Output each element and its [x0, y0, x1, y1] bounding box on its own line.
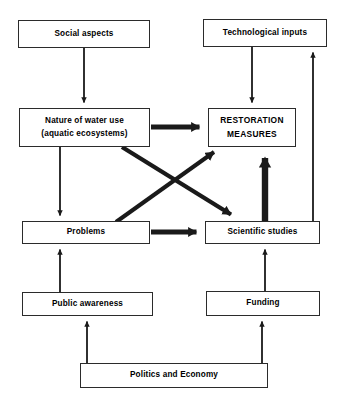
- node-label-line: Problems: [67, 226, 106, 239]
- node-label-line: Politics and Economy: [130, 369, 218, 382]
- node-label-line: MEASURES: [227, 128, 277, 141]
- node-politics-and-economy: Politics and Economy: [80, 363, 268, 388]
- node-label-line: Scientific studies: [227, 226, 297, 239]
- node-public-awareness: Public awareness: [22, 292, 153, 316]
- node-funding: Funding: [206, 291, 320, 316]
- node-nature-of-water-use: Nature of water use (aquatic ecosystems): [19, 108, 150, 147]
- node-label-line: Social aspects: [55, 28, 114, 41]
- node-restoration-measures: RESTORATION MEASURES: [208, 108, 296, 147]
- node-label-line: (aquatic ecosystems): [41, 128, 127, 141]
- node-problems: Problems: [22, 221, 150, 244]
- node-label-line: Public awareness: [52, 298, 123, 311]
- node-label-line: RESTORATION: [220, 114, 283, 127]
- node-technological-inputs: Technological inputs: [203, 19, 327, 47]
- node-label-line: Funding: [246, 297, 279, 310]
- edge-problems-to-restoration: [116, 152, 214, 222]
- node-label-line: Nature of water use: [45, 115, 124, 128]
- node-label-line: Technological inputs: [223, 27, 307, 40]
- node-social-aspects: Social aspects: [18, 20, 150, 48]
- node-scientific-studies: Scientific studies: [205, 221, 320, 244]
- edge-layer: [0, 0, 341, 409]
- flowchart-diagram: Social aspects Technological inputs Natu…: [0, 0, 341, 409]
